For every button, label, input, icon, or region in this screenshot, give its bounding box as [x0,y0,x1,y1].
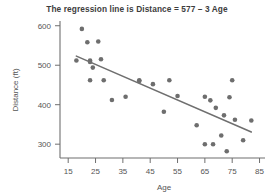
x-tick-label: 75 [228,167,237,176]
y-axis-title: Distance (ft) [11,68,20,111]
data-point [224,149,229,154]
data-point [222,113,227,118]
data-point [151,82,156,87]
x-axis: 1525354555657585 Age [60,158,265,192]
scatter-plot: 300400500600 Distance (ft) 1525354555657… [0,0,274,196]
regression-line [76,56,251,132]
data-point [208,98,213,103]
x-tick-label: 35 [118,167,127,176]
data-point [96,39,101,44]
data-point [80,27,85,32]
x-tick-label: 15 [64,167,73,176]
x-tick-label: 45 [146,167,155,176]
data-point [88,78,93,83]
data-point [101,78,106,83]
data-point [211,142,216,147]
y-tick-group: 300400500600 [38,22,60,149]
data-point [99,57,104,62]
data-point [175,94,180,99]
data-point [85,40,90,45]
x-tick-group: 1525354555657585 [64,158,265,176]
data-point [249,118,254,123]
data-point [203,95,208,100]
data-point [167,78,172,83]
y-tick-label: 400 [38,101,52,110]
data-point-group [74,27,254,154]
data-point [123,95,128,100]
data-point [162,110,167,115]
x-tick-label: 25 [91,167,100,176]
y-tick-label: 300 [38,140,52,149]
data-point [230,78,235,83]
y-axis: 300400500600 Distance (ft) [11,21,60,158]
x-tick-label: 55 [173,167,182,176]
data-point [194,123,199,128]
chart-figure: The regression line is Distance = 577 – … [0,0,274,196]
data-point [110,98,115,103]
data-point [241,138,246,143]
data-point [91,65,96,70]
x-tick-label: 85 [255,167,264,176]
x-tick-label: 65 [200,167,209,176]
x-axis-title: Age [157,183,172,192]
data-point [203,142,208,147]
y-tick-label: 500 [38,61,52,70]
data-point [233,117,238,122]
data-point [227,95,232,100]
data-point [214,106,219,111]
y-tick-label: 600 [38,22,52,31]
data-point [74,58,79,63]
data-point [219,133,224,138]
